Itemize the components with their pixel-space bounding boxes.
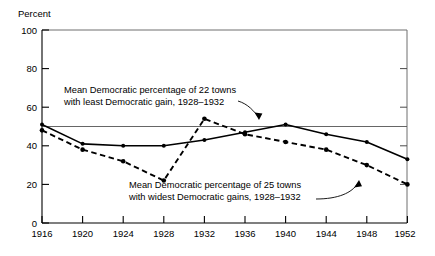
- data-point: [81, 142, 85, 146]
- series-line-widest-democratic-gains-25-towns: [42, 119, 407, 185]
- data-point: [365, 163, 370, 168]
- x-tick-label-1928: 1928: [153, 228, 174, 239]
- annotation-widest-gains-line2: with widest Democratic gains, 1928–1932: [128, 192, 301, 202]
- data-point: [202, 138, 206, 142]
- data-point: [80, 147, 85, 152]
- data-point: [202, 116, 207, 121]
- x-tick-label-1916: 1916: [31, 228, 52, 239]
- data-point: [405, 157, 409, 161]
- data-point: [162, 144, 166, 148]
- series-line-least-democratic-gain-22-towns: [42, 125, 407, 160]
- data-point: [365, 140, 369, 144]
- chart-canvas: Percent 100 80 60 40 20 0: [0, 0, 435, 256]
- x-tick-label-1948: 1948: [356, 228, 377, 239]
- data-point: [324, 132, 328, 136]
- data-point: [40, 123, 44, 127]
- x-tick-group: 1916 1920 1924 1928 1932 1936 1940 1944 …: [31, 216, 415, 239]
- y-tick-label-40: 40: [26, 140, 37, 151]
- y-tick-label-0: 0: [32, 218, 37, 229]
- series-widest-democratic-gains-25-towns: [40, 116, 410, 186]
- x-tick-label-1936: 1936: [234, 228, 255, 239]
- y-tick-label-100: 100: [21, 25, 37, 36]
- x-tick-label-1932: 1932: [194, 228, 215, 239]
- annotation-widest-gains-line1: Mean Democratic percentage of 25 towns: [129, 180, 301, 190]
- data-point: [405, 182, 410, 187]
- annotation-least-gain-leader: [238, 101, 259, 118]
- x-tick-label-1944: 1944: [316, 228, 337, 239]
- series-least-democratic-gain-22-towns: [40, 123, 409, 162]
- data-point: [284, 123, 288, 127]
- series-layer: [40, 116, 410, 186]
- x-tick-label-1924: 1924: [113, 228, 134, 239]
- data-point: [121, 159, 126, 164]
- y-tick-label-80: 80: [26, 63, 37, 74]
- data-point: [121, 144, 125, 148]
- data-point: [324, 147, 329, 152]
- annotation-least-gain-arrowhead: [255, 112, 263, 120]
- y-tick-label-20: 20: [26, 179, 37, 190]
- x-tick-label-1920: 1920: [72, 228, 93, 239]
- y-tick-label-60: 60: [26, 102, 37, 113]
- data-point: [40, 128, 45, 133]
- y-axis-label: Percent: [18, 8, 51, 19]
- annotation-least-gain: Mean Democratic percentage of 22 towns w…: [63, 85, 262, 120]
- x-tick-label-1952: 1952: [394, 228, 415, 239]
- annotation-least-gain-line2: with least Democratic gain, 1928–1932: [63, 97, 224, 107]
- data-point: [243, 132, 248, 137]
- annotation-widest-gains-arrowhead: [354, 180, 362, 188]
- x-tick-label-1940: 1940: [275, 228, 296, 239]
- chart-figure: Percent 100 80 60 40 20 0: [0, 0, 435, 256]
- annotation-least-gain-line1: Mean Democratic percentage of 22 towns: [64, 85, 236, 95]
- annotation-widest-gains: Mean Democratic percentage of 25 towns w…: [128, 180, 362, 202]
- data-point: [283, 140, 288, 145]
- annotation-widest-gains-leader: [316, 183, 358, 199]
